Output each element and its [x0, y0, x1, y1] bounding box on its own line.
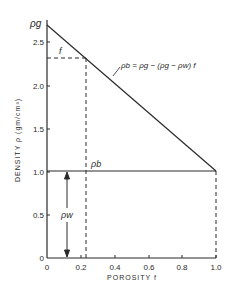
y-tick-label: 0 — [40, 254, 45, 263]
x-tick-label: 0 — [45, 263, 50, 272]
y-tick-label: 2.5 — [33, 38, 45, 47]
bulk-density-line — [47, 25, 216, 171]
y-tick-label: 1.5 — [33, 125, 45, 134]
x-tick-label: 0.2 — [75, 263, 87, 272]
y-axis-title: DENSITY ρ (gm/cm³) — [14, 98, 22, 182]
x-tick-label: 0.8 — [176, 263, 188, 272]
x-tick-label: 0.6 — [143, 263, 155, 272]
rho-g-label: ρg — [29, 18, 42, 29]
x-tick-label: 0.4 — [109, 263, 121, 272]
rho-b-label: ρb — [90, 159, 101, 169]
y-tick-label: 0.5 — [33, 211, 45, 220]
porosity-density-chart: 0 0.5 1.0 1.5 2.0 2.5 ρg 0 0.2 0.4 0.6 0… — [0, 0, 231, 284]
rho-w-label: ρw — [60, 210, 73, 220]
x-axis-title: POROSITY f — [107, 274, 157, 281]
y-tick-label: 1.0 — [33, 168, 45, 177]
y-tick-label: 2.0 — [33, 82, 45, 91]
equation-leader — [113, 67, 120, 76]
f-label: f — [59, 46, 63, 56]
equation-label: ρb = ρg − (ρg − ρw) f — [120, 61, 196, 70]
x-tick-label: 1.0 — [210, 263, 222, 272]
